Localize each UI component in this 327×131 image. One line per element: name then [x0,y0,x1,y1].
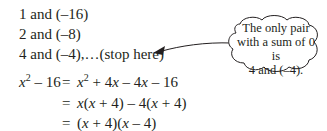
callout-line-3: 4 and (–4). [236,63,316,77]
pair-3: 4 and (–4),…(stop here) [19,45,164,63]
equation-row-2: x(x + 4) – 4(x + 4) [77,94,186,112]
callout-text: The only pair with a sum of 0 is 4 and (… [236,21,316,77]
pair-1: 1 and (–16) [19,5,88,23]
callout-line-1: The only pair [236,21,316,35]
pair-2: 2 and (–8) [19,25,81,43]
callout-line-2: with a sum of 0 is [236,35,316,63]
equals-2: = [62,94,70,112]
equals-1: = [62,73,70,91]
equals-3: = [62,114,70,131]
equation-row-3: (x + 4)(x – 4) [77,114,156,131]
equation-lhs: x2 – 16 [19,73,61,91]
arrow-line [162,43,232,51]
equation-row-1: x2 + 4x – 4x – 16 [77,73,178,91]
